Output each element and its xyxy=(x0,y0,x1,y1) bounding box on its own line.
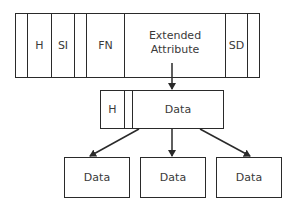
arrows xyxy=(0,0,295,208)
arrow-data-to-right xyxy=(200,129,250,156)
arrow-data-to-left xyxy=(90,129,139,156)
